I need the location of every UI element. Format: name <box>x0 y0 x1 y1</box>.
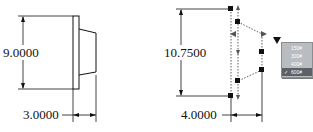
menu-item-300[interactable]: 300# <box>282 52 312 60</box>
check-icon: ✓ <box>284 68 288 76</box>
pressure-class-menu[interactable]: 150# 300# 400# ✓600# <box>281 42 313 78</box>
menu-item-400[interactable]: 400# <box>282 60 312 68</box>
right-height-dimension: 10.7500 <box>163 46 207 60</box>
right-dimension-lines <box>176 9 262 122</box>
right-width-dimension: 4.0000 <box>180 108 218 122</box>
left-width-dimension: 3.0000 <box>22 108 60 122</box>
right-dimension-arrows <box>179 9 262 117</box>
menu-item-600[interactable]: ✓600# <box>282 68 312 76</box>
menu-trigger-arrow[interactable] <box>273 37 281 44</box>
left-dimension-arrows <box>21 16 96 117</box>
left-height-dimension: 9.0000 <box>2 46 40 60</box>
left-part-outline <box>73 16 96 89</box>
menu-item-150[interactable]: 150# <box>282 44 312 52</box>
grip-handles[interactable] <box>228 6 264 98</box>
